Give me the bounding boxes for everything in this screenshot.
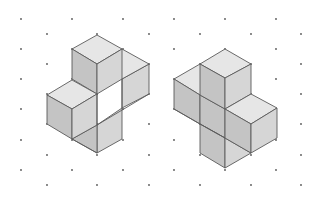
grid-dot: [122, 169, 124, 171]
grid-dot: [71, 169, 73, 171]
grid-dot: [148, 184, 150, 186]
grid-dot: [122, 139, 124, 141]
grid-dot: [199, 33, 201, 35]
grid-dot: [300, 154, 302, 156]
grid-dot: [20, 169, 22, 171]
grid-dot: [46, 63, 48, 65]
grid-dot: [300, 123, 302, 125]
grid-dot: [275, 78, 277, 80]
grid-dot: [71, 18, 73, 20]
grid-dot: [199, 154, 201, 156]
grid-dot: [275, 48, 277, 50]
grid-dot: [96, 154, 98, 156]
grid-dot: [300, 63, 302, 65]
grid-dot: [148, 154, 150, 156]
grid-dot: [250, 184, 252, 186]
grid-dot: [46, 184, 48, 186]
grid-dot: [275, 169, 277, 171]
grid-dot: [46, 154, 48, 156]
isometric-diagram: [0, 0, 319, 198]
grid-dot: [275, 18, 277, 20]
grid-dot: [199, 184, 201, 186]
grid-dot: [96, 184, 98, 186]
grid-dot: [20, 139, 22, 141]
grid-dot: [224, 18, 226, 20]
grid-dot: [173, 48, 175, 50]
grid-dot: [300, 93, 302, 95]
grid-dot: [250, 154, 252, 156]
grid-dot: [122, 18, 124, 20]
grid-dot: [20, 18, 22, 20]
grid-dot: [224, 169, 226, 171]
grid-dot: [173, 139, 175, 141]
grid-dot: [148, 33, 150, 35]
grid-dot: [20, 108, 22, 110]
grid-dot: [20, 48, 22, 50]
grid-dot: [300, 184, 302, 186]
grid-dot: [300, 33, 302, 35]
grid-dot: [46, 33, 48, 35]
grid-dot: [250, 33, 252, 35]
grid-dot: [173, 18, 175, 20]
grid-dot: [20, 78, 22, 80]
grid-dot: [173, 169, 175, 171]
grid-dot: [148, 123, 150, 125]
